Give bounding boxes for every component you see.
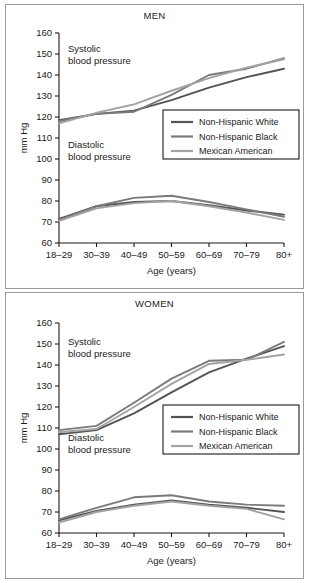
- legend-label: Non-Hispanic White: [199, 412, 279, 422]
- x-tick-label: 40–49: [121, 249, 147, 260]
- x-tick-label: 30–39: [83, 249, 109, 260]
- chart-panel-men: MEN 6070809010011012013014015016018–2930…: [5, 4, 304, 289]
- y-tick-label: 90: [41, 464, 52, 475]
- annotation-diastolic: Diastolicblood pressure: [68, 139, 131, 162]
- y-tick-label: 110: [37, 132, 52, 143]
- x-tick-label: 80+: [276, 249, 293, 260]
- legend-label: Mexican American: [199, 441, 273, 451]
- x-tick-label: 70–79: [233, 539, 259, 550]
- y-tick-label: 120: [36, 111, 52, 122]
- y-axis-title: mm Hg: [18, 123, 29, 154]
- x-tick-label: 80+: [276, 539, 293, 550]
- plot-area-women: 6070809010011012013014015016018–2930–394…: [6, 293, 305, 578]
- y-tick-label: 60: [41, 237, 52, 248]
- y-tick-label: 130: [36, 90, 52, 101]
- annotation-systolic: Systolicblood pressure: [68, 336, 131, 359]
- x-tick-label: 60–69: [196, 539, 222, 550]
- y-tick-label: 100: [36, 443, 52, 454]
- y-tick-label: 110: [37, 422, 52, 433]
- y-tick-label: 130: [36, 380, 52, 391]
- chart-svg-men: 6070809010011012013014015016018–2930–394…: [6, 5, 305, 288]
- plot-area-men: 6070809010011012013014015016018–2930–394…: [6, 5, 305, 288]
- y-tick-label: 160: [36, 317, 52, 328]
- y-tick-label: 70: [41, 506, 52, 517]
- x-tick-label: 50–59: [158, 249, 184, 260]
- figure-container: MEN 6070809010011012013014015016018–2930…: [0, 0, 310, 583]
- x-axis-title: Age (years): [147, 265, 196, 276]
- x-tick-label: 60–69: [196, 249, 222, 260]
- y-tick-label: 140: [36, 359, 52, 370]
- legend-label: Non-Hispanic Black: [199, 132, 278, 142]
- series-line-diastolic-non-hispanic-black: [59, 196, 284, 220]
- y-tick-label: 140: [36, 69, 52, 80]
- x-tick-label: 18–29: [46, 249, 72, 260]
- y-tick-label: 160: [36, 27, 52, 38]
- x-tick-label: 30–39: [83, 539, 109, 550]
- y-tick-label: 90: [41, 174, 52, 185]
- annotation-diastolic: Diastolicblood pressure: [68, 432, 131, 455]
- y-axis-title: mm Hg: [18, 413, 29, 444]
- x-tick-label: 50–59: [158, 539, 184, 550]
- x-tick-label: 18–29: [46, 539, 72, 550]
- legend-label: Mexican American: [199, 146, 273, 156]
- chart-panel-women: WOMEN 6070809010011012013014015016018–29…: [5, 292, 304, 579]
- y-tick-label: 70: [41, 216, 52, 227]
- y-tick-label: 100: [36, 153, 52, 164]
- y-tick-label: 60: [41, 527, 52, 538]
- legend-label: Non-Hispanic White: [199, 117, 279, 127]
- chart-legend: Non-Hispanic WhiteNon-Hispanic BlackMexi…: [163, 110, 299, 159]
- chart-svg-women: 6070809010011012013014015016018–2930–394…: [6, 293, 305, 578]
- legend-label: Non-Hispanic Black: [199, 427, 278, 437]
- y-tick-label: 150: [36, 338, 52, 349]
- y-tick-label: 80: [41, 485, 52, 496]
- y-tick-label: 120: [36, 401, 52, 412]
- chart-legend: Non-Hispanic WhiteNon-Hispanic BlackMexi…: [163, 405, 299, 454]
- y-tick-label: 80: [41, 195, 52, 206]
- annotation-systolic: Systolicblood pressure: [68, 43, 131, 66]
- y-tick-label: 150: [36, 48, 52, 59]
- x-tick-label: 70–79: [233, 249, 259, 260]
- x-axis-title: Age (years): [147, 555, 196, 566]
- x-tick-label: 40–49: [121, 539, 147, 550]
